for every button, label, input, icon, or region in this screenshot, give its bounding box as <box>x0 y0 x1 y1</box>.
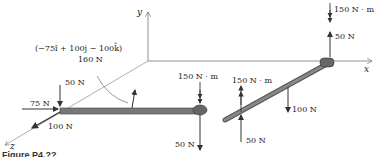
force-magnitude-label: 160 N <box>78 56 103 64</box>
y-axis-label: y <box>137 8 142 17</box>
right-mid-load-down-label: 100 N <box>292 106 317 114</box>
left-end-load-label: 50 N <box>175 141 195 149</box>
left-bar <box>22 76 207 150</box>
left-load-down-label: 50 N <box>65 79 85 87</box>
x-axis-label: x <box>364 65 369 74</box>
load-z-label: 100 N <box>48 123 73 131</box>
right-mid-moment-label: 150 N · m <box>232 77 272 85</box>
right-mid-load-up-label: 50 N <box>246 137 266 145</box>
left-end-moment-label: 150 N · m <box>178 73 218 81</box>
force-vector-label: (−75î + 100ĵ − 100k̂) <box>35 45 122 53</box>
right-top-load-label: 50 N <box>335 33 355 41</box>
figure-caption: Figure P4.?? <box>2 151 57 157</box>
right-bar <box>225 3 334 142</box>
right-top-moment-label: 150 N · m <box>334 6 374 14</box>
load-x-label: 75 N <box>30 100 50 108</box>
